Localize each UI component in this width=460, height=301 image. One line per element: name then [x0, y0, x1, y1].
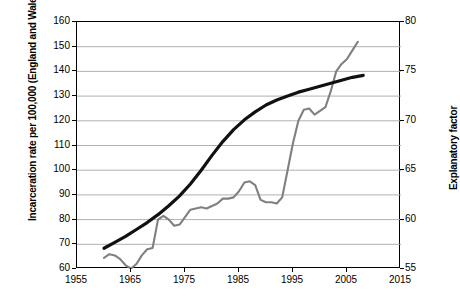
x-tickmark-1965	[130, 268, 131, 272]
data-lines	[77, 22, 401, 269]
y-tickmark-100	[72, 169, 76, 170]
y-tickmark-70	[72, 243, 76, 244]
x-tickmark-1975	[184, 268, 185, 272]
y-tickmark-90	[72, 194, 76, 195]
y2-tickmark-65	[400, 169, 404, 170]
y-tick-70: 70	[44, 237, 70, 248]
y-tickmark-150	[72, 46, 76, 47]
x-tick-1975: 1975	[164, 274, 204, 285]
y-tick-160: 160	[44, 15, 70, 26]
y-tick-60: 60	[44, 262, 70, 273]
x-tick-1965: 1965	[110, 274, 150, 285]
x-tick-2005: 2005	[326, 274, 366, 285]
y-tickmark-130	[72, 95, 76, 96]
y-tickmark-110	[72, 145, 76, 146]
y-tick-120: 120	[44, 114, 70, 125]
y-tick-80: 80	[44, 213, 70, 224]
left-axis-title: Incarceration rate per 100,000 (England …	[27, 41, 39, 221]
y-tick-110: 110	[44, 139, 70, 150]
y2-tickmark-75	[400, 70, 404, 71]
x-tick-1985: 1985	[218, 274, 258, 285]
x-tickmark-1995	[292, 268, 293, 272]
y-tickmark-160	[72, 21, 76, 22]
y2-tick-65: 65	[405, 163, 431, 174]
y2-tick-80: 80	[405, 15, 431, 26]
y-tick-150: 150	[44, 40, 70, 51]
y2-tick-75: 75	[405, 64, 431, 75]
x-tickmark-2005	[346, 268, 347, 272]
y-tickmark-120	[72, 120, 76, 121]
y2-tick-60: 60	[405, 213, 431, 224]
x-tick-2015: 2015	[380, 274, 420, 285]
y2-tickmark-70	[400, 120, 404, 121]
y2-tickmark-80	[400, 21, 404, 22]
right-axis-title: Explanatory factor	[448, 58, 460, 238]
y2-tickmark-55	[400, 268, 404, 269]
y-tick-140: 140	[44, 64, 70, 75]
y2-tick-55: 55	[405, 262, 431, 273]
y-tick-100: 100	[44, 163, 70, 174]
y-tick-130: 130	[44, 89, 70, 100]
y-tickmark-140	[72, 70, 76, 71]
x-tick-1955: 1955	[56, 274, 96, 285]
y2-tick-70: 70	[405, 114, 431, 125]
y-tickmark-60	[72, 268, 76, 269]
plot-area	[76, 21, 400, 268]
x-tickmark-1985	[238, 268, 239, 272]
y-tick-90: 90	[44, 188, 70, 199]
y2-tickmark-60	[400, 219, 404, 220]
y-tickmark-80	[72, 219, 76, 220]
x-tick-1995: 1995	[272, 274, 312, 285]
